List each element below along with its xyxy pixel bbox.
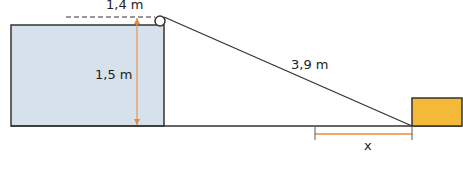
rope-line: [164, 17, 412, 126]
block: [412, 98, 462, 126]
diagram-canvas: [0, 0, 463, 171]
height-arrow-top-icon: [134, 18, 140, 24]
unknown-distance-label: x: [364, 139, 372, 152]
top-width-label: 1,4 m: [106, 0, 143, 11]
height-label: 1,5 m: [95, 68, 132, 81]
tank: [11, 25, 164, 126]
slope-length-label: 3,9 m: [291, 58, 328, 71]
pulley: [155, 16, 165, 26]
